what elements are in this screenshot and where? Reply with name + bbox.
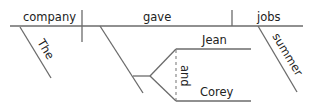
indirect-object-word-1: Jean (201, 33, 227, 47)
verb-word: gave (143, 10, 171, 24)
compound-fork-upper (150, 49, 176, 76)
sentence-diagram: The summer company gave jobs Jean Corey … (0, 0, 309, 110)
indirect-object-word-2: Corey (200, 85, 234, 99)
indirect-object-slant (100, 26, 143, 93)
subject-word: company (23, 10, 76, 24)
subject-modifier-word: The (34, 35, 58, 61)
conjunction-word: and (178, 65, 192, 87)
compound-fork-lower (150, 76, 176, 101)
direct-object-word: jobs (256, 10, 281, 24)
